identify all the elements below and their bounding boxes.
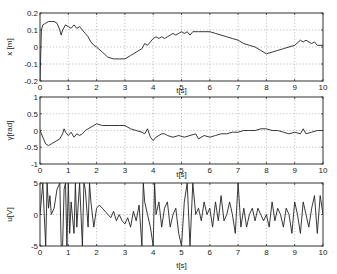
y-tick-label: 0.1	[27, 26, 39, 35]
x-tick-label: 1	[66, 83, 71, 92]
x-tick-label: 3	[123, 83, 128, 92]
x-tick-label: 3	[123, 166, 128, 175]
x-tick-label: 6	[208, 83, 213, 92]
x-tick-label: 1	[66, 166, 71, 175]
series-x	[40, 22, 323, 82]
x-tick-label: 4	[151, 248, 156, 257]
x-tick-label: 8	[264, 83, 269, 92]
x-tick-label: 8	[264, 248, 269, 257]
x-tick-label: 8	[264, 166, 269, 175]
x-tick-label: 2	[94, 83, 99, 92]
y-tick-label: -0.5	[24, 143, 38, 152]
y-tick-label: 0	[34, 211, 39, 220]
figure: 012345678910-0.2-0.100.10.2t[s]x [m] 012…	[0, 0, 337, 274]
x-tick-label: 4	[151, 166, 156, 175]
y-tick-label: 0.2	[27, 9, 39, 18]
x-tick-label: 2	[94, 248, 99, 257]
x-axis-label: t[s]	[176, 170, 187, 179]
y-tick-label: -5	[31, 242, 39, 251]
x-tick-label: 7	[236, 248, 241, 257]
panel-angle: 012345678910-1-0.500.51t[s]γ[rad]	[5, 93, 328, 179]
y-tick-label: 0	[34, 127, 39, 136]
x-tick-label: 10	[319, 83, 328, 92]
panel-position: 012345678910-0.2-0.100.10.2t[s]x [m]	[5, 9, 328, 95]
panel-voltage: 012345678910-505t[s]u[V]	[5, 179, 328, 270]
x-tick-label: 5	[179, 248, 184, 257]
x-tick-label: 10	[319, 248, 328, 257]
y-tick-label: 0	[34, 43, 39, 52]
y-tick-label: 5	[34, 179, 39, 188]
y-tick-label: -1	[31, 160, 39, 169]
x-tick-label: 0	[38, 248, 43, 257]
x-tick-label: 6	[208, 166, 213, 175]
y-axis-label: γ[rad]	[5, 120, 14, 140]
x-tick-label: 4	[151, 83, 156, 92]
y-tick-label: 0.5	[27, 110, 39, 119]
x-tick-label: 7	[236, 166, 241, 175]
x-tick-label: 2	[94, 166, 99, 175]
y-axis-label: u[V]	[5, 207, 14, 221]
x-tick-label: 9	[292, 166, 297, 175]
x-tick-label: 3	[123, 248, 128, 257]
x-tick-label: 10	[319, 166, 328, 175]
x-axis-label: t[s]	[176, 86, 187, 95]
x-tick-label: 0	[38, 83, 43, 92]
x-tick-label: 0	[38, 166, 43, 175]
x-tick-label: 1	[66, 248, 71, 257]
x-tick-label: 9	[292, 83, 297, 92]
y-tick-label: -0.1	[24, 60, 38, 69]
y-axis-label: x [m]	[5, 38, 14, 55]
x-tick-label: 7	[236, 83, 241, 92]
y-tick-label: 1	[34, 93, 39, 102]
x-axis-label: t[s]	[176, 261, 187, 270]
x-tick-label: 9	[292, 248, 297, 257]
x-tick-label: 6	[208, 248, 213, 257]
y-tick-label: -0.2	[24, 77, 38, 86]
